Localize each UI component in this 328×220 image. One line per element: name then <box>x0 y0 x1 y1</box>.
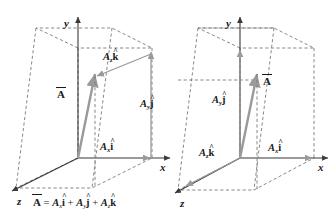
right-y-axis-label: y <box>226 18 231 29</box>
left-vector-A-glyph: A <box>57 89 65 100</box>
right-dashed-box <box>178 28 314 190</box>
right-vector-A-arrow <box>240 74 257 158</box>
coef: A <box>268 142 275 153</box>
right-component-Az-k-label: Az^k <box>199 148 214 159</box>
left-vector-A-text: A <box>57 88 65 100</box>
equation-lhs-vector: A <box>33 196 41 208</box>
hat-accent: ^ <box>150 95 154 103</box>
i-hat-glyph: ^i <box>110 142 113 153</box>
term3-coef: A <box>101 197 108 208</box>
hat-accent: ^ <box>222 91 226 99</box>
right-component-Ax-i-label: Ax^i <box>268 143 281 154</box>
overbar <box>32 194 42 195</box>
left-component-Ay-j-label: Ay^j <box>140 99 153 110</box>
coef: A <box>199 147 206 158</box>
caption-equation: A = Ax^i + Ay^j + Az^k <box>33 196 116 208</box>
plus-sign-1: + <box>68 197 74 208</box>
hat-accent: ^ <box>86 193 90 201</box>
right-diagram-graphics <box>175 17 328 193</box>
hat-accent: ^ <box>113 48 119 56</box>
term1-i-hat-glyph: ^i <box>62 197 65 208</box>
left-component-Ax-i-label: Ax^i <box>100 142 113 153</box>
hat-accent: ^ <box>278 139 281 147</box>
plus-sign-2: + <box>92 197 98 208</box>
right-vector-A-label: A <box>263 76 271 88</box>
right-z-axis-label: z <box>180 198 184 209</box>
left-vector-A-label: A <box>57 89 65 101</box>
hat-accent: ^ <box>209 144 215 152</box>
equals-sign: = <box>44 197 50 208</box>
right-component-Az-arrow <box>186 158 240 186</box>
coef: A <box>100 141 107 152</box>
left-vector-A-arrow <box>78 74 95 158</box>
hat-accent: ^ <box>110 193 116 201</box>
coef: A <box>140 98 147 109</box>
right-component-Ay-j-label: Ay^j <box>212 95 225 106</box>
left-x-axis-label: x <box>160 162 166 173</box>
left-z-axis-line <box>12 158 78 191</box>
left-dashed-box <box>16 28 152 188</box>
left-z-axis-label: z <box>17 196 21 207</box>
left-component-Az-k-label: Az^k <box>103 52 118 63</box>
j-hat-glyph: ^j <box>150 99 154 110</box>
coef: A <box>212 94 219 105</box>
j-hat-glyph: ^j <box>222 95 226 106</box>
overbar <box>56 87 66 88</box>
overbar <box>262 74 272 75</box>
right-vector-A-text: A <box>263 75 271 87</box>
right-x-axis-label: x <box>318 162 324 173</box>
left-y-axis-label: y <box>64 18 69 29</box>
term2-j-hat-glyph: ^j <box>86 197 90 208</box>
vector-components-figure: y x z A Az^k Ay^j Ax^i y x z A Ay^j Az^k… <box>0 0 328 220</box>
figure-canvas <box>0 0 328 220</box>
hat-accent: ^ <box>110 138 113 146</box>
coef: A <box>103 51 110 62</box>
term3-k-hat-glyph: ^k <box>110 197 116 208</box>
i-hat-glyph: ^i <box>278 143 281 154</box>
k-hat-glyph: ^k <box>209 148 215 159</box>
equation-lhs-text: A <box>33 196 41 208</box>
k-hat-glyph: ^k <box>113 52 119 63</box>
right-vector-A-glyph: A <box>263 76 271 87</box>
hat-accent: ^ <box>62 193 65 201</box>
